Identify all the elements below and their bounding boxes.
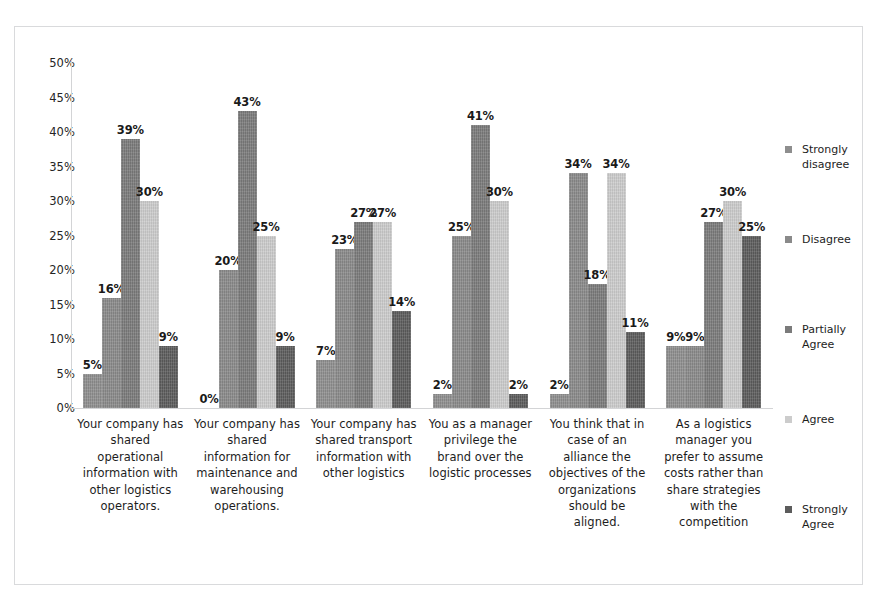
x-axis-category-label: As a logistics manager you prefer to ass… — [655, 416, 772, 576]
bar-value-label: 30% — [136, 185, 163, 199]
x-axis-line — [71, 408, 773, 409]
bar-value-label: 27% — [369, 206, 396, 220]
bar-disagree[interactable]: 23% — [335, 249, 354, 408]
bar-agree[interactable]: 30% — [140, 201, 159, 408]
legend-item-label: Partially Agree — [802, 323, 846, 352]
bar-group: 7%23%27%27%14% — [305, 63, 422, 408]
y-axis-tick-label: 50% — [31, 56, 75, 70]
bar-cluster: 0%20%43%25%9% — [200, 63, 295, 408]
x-axis-category-label: You as a manager privilege the brand ove… — [422, 416, 539, 576]
x-axis-category-label: Your company has shared operational info… — [72, 416, 189, 576]
bar-value-label: 30% — [486, 185, 513, 199]
bar-agree[interactable]: 34% — [607, 173, 626, 408]
bar-partially-agree[interactable]: 39% — [121, 139, 140, 408]
y-axis-tick-label: 20% — [31, 263, 75, 277]
bar-value-label: 43% — [234, 95, 261, 109]
legend-item[interactable]: Disagree — [785, 233, 878, 248]
bar-strongly-disagree[interactable]: 2% — [433, 394, 452, 408]
bar-value-label: 30% — [719, 185, 746, 199]
bar-value-label: 11% — [622, 316, 649, 330]
bar-partially-agree[interactable]: 27% — [704, 222, 723, 408]
bar-value-label: 9% — [159, 330, 178, 344]
plot-area: 5%16%39%30%9%0%20%43%25%9%7%23%27%27%14%… — [72, 63, 772, 408]
bar-value-label: 39% — [117, 123, 144, 137]
bar-value-label: 9% — [666, 330, 685, 344]
bar-strongly-disagree[interactable]: 5% — [83, 374, 102, 409]
bar-disagree[interactable]: 9% — [685, 346, 704, 408]
bar-disagree[interactable]: 25% — [452, 236, 471, 409]
y-axis-tick-label: 10% — [31, 332, 75, 346]
bar-value-label: 5% — [83, 358, 102, 372]
legend-item-label: Disagree — [802, 233, 851, 248]
y-axis-tick-label: 0% — [31, 401, 75, 415]
legend-item[interactable]: Strongly Agree — [785, 503, 878, 532]
bar-cluster: 2%25%41%30%2% — [433, 63, 528, 408]
y-axis-tick-label: 25% — [31, 229, 75, 243]
bar-strongly-disagree[interactable]: 9% — [666, 346, 685, 408]
bar-value-label: 9% — [275, 330, 294, 344]
bar-group: 0%20%43%25%9% — [189, 63, 306, 408]
bar-value-label: 14% — [388, 295, 415, 309]
legend-item-label: Strongly disagree — [802, 143, 849, 172]
y-axis-tick-label: 30% — [31, 194, 75, 208]
x-axis-category-label: Your company has shared information for … — [189, 416, 306, 576]
bar-partially-agree[interactable]: 18% — [588, 284, 607, 408]
legend-item-label: Strongly Agree — [802, 503, 848, 532]
bar-partially-agree[interactable]: 27% — [354, 222, 373, 408]
bar-value-label: 2% — [433, 378, 452, 392]
bar-value-label: 2% — [549, 378, 568, 392]
bar-cluster: 2%34%18%34%11% — [550, 63, 645, 408]
y-axis-tick-label: 15% — [31, 298, 75, 312]
legend-swatch-icon — [785, 326, 792, 333]
bar-cluster: 9%9%27%30%25% — [666, 63, 761, 408]
legend-swatch-icon — [785, 506, 792, 513]
x-axis-category-label: Your company has shared transport inform… — [305, 416, 422, 576]
legend-item[interactable]: Strongly disagree — [785, 143, 878, 172]
x-axis-category-label: You think that in case of an alliance th… — [539, 416, 656, 576]
bar-group: 2%25%41%30%2% — [422, 63, 539, 408]
bar-strongly-agree[interactable]: 14% — [392, 311, 411, 408]
bar-strongly-agree[interactable]: 9% — [276, 346, 295, 408]
bar-partially-agree[interactable]: 41% — [471, 125, 490, 408]
bar-value-label: 7% — [316, 344, 335, 358]
legend-swatch-icon — [785, 416, 792, 423]
bar-agree[interactable]: 30% — [490, 201, 509, 408]
chart-container: 50%45%40%35%30%25%20%15%10%5%0% 5%16%39%… — [14, 26, 863, 585]
bar-strongly-agree[interactable]: 25% — [742, 236, 761, 409]
bar-disagree[interactable]: 34% — [569, 173, 588, 408]
bar-disagree[interactable]: 20% — [219, 270, 238, 408]
bar-value-label: 0% — [199, 392, 218, 406]
y-axis-tick-label: 5% — [31, 367, 75, 381]
bar-agree[interactable]: 27% — [373, 222, 392, 408]
bar-value-label: 41% — [467, 109, 494, 123]
bar-value-label: 9% — [685, 330, 704, 344]
bar-group: 5%16%39%30%9% — [72, 63, 189, 408]
bar-strongly-disagree[interactable]: 2% — [550, 394, 569, 408]
bar-partially-agree[interactable]: 43% — [238, 111, 257, 408]
bar-group: 2%34%18%34%11% — [539, 63, 656, 408]
bar-strongly-agree[interactable]: 2% — [509, 394, 528, 408]
bar-value-label: 2% — [509, 378, 528, 392]
bar-agree[interactable]: 25% — [257, 236, 276, 409]
bar-cluster: 7%23%27%27%14% — [316, 63, 411, 408]
bar-group: 9%9%27%30%25% — [655, 63, 772, 408]
legend-item[interactable]: Partially Agree — [785, 323, 878, 352]
legend-swatch-icon — [785, 146, 792, 153]
legend-swatch-icon — [785, 236, 792, 243]
bar-value-label: 34% — [603, 157, 630, 171]
bar-strongly-agree[interactable]: 9% — [159, 346, 178, 408]
chart-legend: Strongly disagreeDisagreePartially Agree… — [785, 63, 878, 543]
y-axis-tick-label: 40% — [31, 125, 75, 139]
legend-item-label: Agree — [802, 413, 834, 428]
bar-value-label: 34% — [565, 157, 592, 171]
y-axis: 50%45%40%35%30%25%20%15%10%5%0% — [29, 53, 75, 413]
bar-strongly-disagree[interactable]: 7% — [316, 360, 335, 408]
legend-item[interactable]: Agree — [785, 413, 878, 428]
bar-disagree[interactable]: 16% — [102, 298, 121, 408]
x-axis-labels: Your company has shared operational info… — [72, 416, 772, 576]
bar-strongly-agree[interactable]: 11% — [626, 332, 645, 408]
y-axis-tick-label: 45% — [31, 91, 75, 105]
bar-value-label: 25% — [738, 220, 765, 234]
bar-value-label: 25% — [253, 220, 280, 234]
bar-cluster: 5%16%39%30%9% — [83, 63, 178, 408]
